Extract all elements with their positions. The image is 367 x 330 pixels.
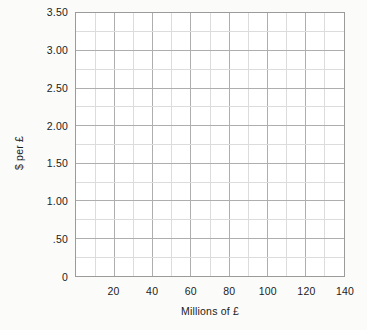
x-tick-label: 120 [286, 286, 326, 297]
x-axis-title: Millions of £ [75, 305, 345, 317]
x-tick-label: 20 [94, 286, 134, 297]
y-tick-label: 1.50 [6, 158, 68, 169]
y-tick-label: 1.00 [6, 196, 68, 207]
x-tick-label: 40 [132, 286, 172, 297]
y-tick-label: .50 [6, 234, 68, 245]
y-tick-label: 0 [6, 272, 68, 283]
chart-figure: $ per £ 0.501.001.502.002.503.003.50 204… [0, 0, 367, 330]
x-tick-label: 60 [171, 286, 211, 297]
grid-lines [76, 13, 344, 276]
plot-area [75, 12, 345, 277]
x-tick-label: 80 [209, 286, 249, 297]
x-tick-label: 140 [325, 286, 365, 297]
y-tick-label: 3.00 [6, 44, 68, 55]
y-tick-label: 3.50 [6, 7, 68, 18]
x-tick-label: 100 [248, 286, 288, 297]
y-tick-label: 2.00 [6, 120, 68, 131]
y-tick-label: 2.50 [6, 82, 68, 93]
y-axis-tick-labels: 0.501.001.502.002.503.003.50 [0, 0, 68, 330]
x-axis-tick-labels: 20406080100120140 [0, 286, 367, 300]
